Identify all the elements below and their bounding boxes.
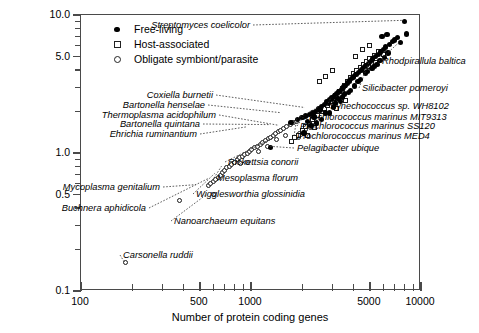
y-axis-tick-label: 10.0 — [36, 8, 70, 20]
y-axis-tick — [75, 36, 81, 37]
x-axis-tick — [224, 284, 225, 291]
open-square-icon — [104, 41, 130, 48]
data-point-annotation: Mycoplasma genitalium — [63, 182, 160, 192]
legend-label: Host-associated — [130, 37, 209, 52]
x-axis-tick — [404, 284, 405, 291]
data-point-annotation: Ehrichia ruminantium — [110, 129, 197, 139]
y-axis-tick-major — [73, 152, 81, 153]
data-point — [274, 137, 279, 142]
x-axis-tick-label: 1000 — [220, 295, 280, 307]
data-point — [268, 145, 273, 150]
y-axis-tick — [75, 111, 81, 112]
x-axis-tick-major — [250, 282, 251, 291]
x-axis-tick — [353, 284, 354, 291]
data-point — [353, 54, 358, 59]
data-point — [402, 19, 407, 24]
data-point — [398, 40, 403, 45]
data-point — [283, 133, 288, 138]
y-axis-tick-major — [73, 194, 81, 195]
y-axis-tick-label: 5.0 — [36, 50, 70, 62]
data-point-annotation: Buchnera aphidicola — [62, 203, 146, 213]
legend-item-host-associated: Host-associated — [104, 37, 258, 52]
x-axis-tick — [132, 284, 133, 291]
data-point — [384, 32, 389, 37]
y-axis-tick — [75, 28, 81, 29]
genome-size-scatter-figure: Genome size (Mb) Number of protein codin… — [0, 0, 479, 333]
x-axis-tick-major — [80, 282, 81, 291]
y-axis-tick-major — [73, 14, 81, 15]
data-point — [367, 43, 372, 48]
data-point — [342, 91, 347, 96]
data-point-annotation: Synechococcus sp. WH8102 — [330, 101, 449, 111]
x-axis-tick-label: 100 — [50, 295, 110, 307]
data-point-annotation: Wigglesworthia glossinidia — [196, 189, 305, 199]
legend-label: Obligate symbiont/parasite — [130, 52, 258, 67]
legend-item-obligate-symbiont: Obligate symbiont/parasite — [104, 52, 258, 67]
data-point — [371, 64, 376, 69]
x-axis-tick-label: 10000 — [390, 295, 450, 307]
data-point-annotation: Bartonella quintana — [120, 119, 200, 129]
y-axis-tick — [75, 174, 81, 175]
data-point-annotation: Rickettsia conorii — [228, 157, 298, 167]
y-axis-tick — [75, 225, 81, 226]
data-point-annotation: Prochlorococcus marinus MED4 — [297, 131, 430, 141]
data-point — [360, 47, 365, 52]
data-point — [256, 149, 261, 154]
y-axis-tick — [75, 21, 81, 22]
y-axis-tick-major — [73, 56, 81, 57]
x-axis-tick — [332, 284, 333, 291]
y-axis-tick — [75, 166, 81, 167]
data-point — [288, 120, 293, 125]
x-axis-tick-major — [199, 282, 200, 291]
data-point — [323, 74, 328, 79]
data-point-annotation: Carsonella ruddii — [123, 250, 193, 260]
y-axis-tick-label: 1.0 — [36, 146, 70, 158]
filled-circle-icon — [104, 27, 130, 33]
x-axis-tick — [243, 284, 244, 291]
y-axis-tick — [75, 87, 81, 88]
data-point — [404, 31, 409, 36]
y-axis-tick — [75, 69, 81, 70]
data-point-annotation: Coxiella burnetii — [147, 90, 213, 100]
data-point — [385, 50, 390, 55]
y-axis-tick — [75, 159, 81, 160]
x-axis-tick-major — [420, 282, 421, 291]
data-point-annotation: Streptomyces coelicolor — [151, 20, 250, 30]
x-axis-tick — [183, 284, 184, 291]
data-point — [123, 260, 128, 265]
data-point — [330, 68, 335, 73]
x-axis-title: Number of protein coding genes — [80, 311, 420, 323]
data-point-annotation: Nanoarchaeum equitans — [174, 216, 275, 226]
data-point-annotation: Rhodpirallula baltica — [382, 56, 466, 66]
data-point-annotation: Mesoplasma florum — [217, 173, 298, 183]
x-axis-tick — [394, 284, 395, 291]
y-axis-tick — [75, 45, 81, 46]
x-axis-tick — [162, 284, 163, 291]
data-point — [317, 79, 322, 84]
open-circle-icon — [104, 56, 130, 63]
x-axis-tick — [413, 284, 414, 291]
x-axis-tick — [213, 284, 214, 291]
data-point-annotation: Bartonella henselae — [123, 100, 205, 110]
data-point — [177, 198, 182, 203]
data-point-annotation: Silicibacter pomeroyi — [362, 83, 448, 93]
data-point — [365, 69, 370, 74]
x-axis-tick — [302, 284, 303, 291]
data-point-annotation: Pelagibacter ubique — [297, 143, 379, 153]
x-axis-tick-major — [369, 282, 370, 291]
y-axis-tick — [75, 249, 81, 250]
data-point — [352, 83, 357, 88]
data-point — [358, 77, 363, 82]
x-axis-tick — [234, 284, 235, 291]
data-point-annotation: Prochlorococcus marinus SS120 — [300, 121, 435, 131]
x-axis-tick — [383, 284, 384, 291]
